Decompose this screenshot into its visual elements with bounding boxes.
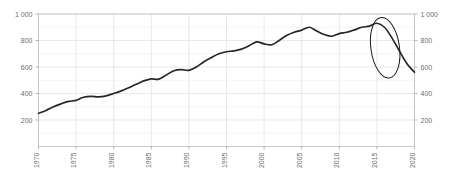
y-axis-tick-label-right: 600 <box>421 64 433 71</box>
x-tick-marks <box>39 147 415 150</box>
x-axis-tick-label: 2005 <box>296 152 303 168</box>
x-axis-tick-label: 1995 <box>221 152 228 168</box>
y-axis-tick-label: 600 <box>21 64 33 71</box>
y-tick-marks-right <box>415 14 418 120</box>
x-axis-tick-label: 2020 <box>409 152 416 168</box>
y-axis-labels-right: 2004006008001 000 <box>421 11 439 124</box>
y-axis-tick-label-right: 200 <box>421 117 433 124</box>
y-axis-tick-label: 200 <box>21 117 33 124</box>
x-axis-tick-label: 2000 <box>258 152 265 168</box>
line-chart: 2004006008001 000 2004006008001 000 1970… <box>0 0 453 191</box>
x-axis-tick-label: 2015 <box>371 152 378 168</box>
y-axis-tick-label: 1 000 <box>15 11 33 18</box>
y-axis-tick-label-right: 1 000 <box>421 11 439 18</box>
y-axis-tick-label: 400 <box>21 90 33 97</box>
y-tick-marks-left <box>36 14 39 120</box>
x-axis-tick-label: 2010 <box>333 152 340 168</box>
y-axis-tick-label-right: 800 <box>421 37 433 44</box>
x-axis-tick-label: 1985 <box>145 152 152 168</box>
y-axis-labels-left: 2004006008001 000 <box>15 11 33 124</box>
x-axis-labels: 1970197519801985199019952000200520102015… <box>33 152 416 168</box>
x-axis-tick-label: 1970 <box>33 152 40 168</box>
x-axis-tick-label: 1975 <box>70 152 77 168</box>
chart-canvas: 2004006008001 000 2004006008001 000 1970… <box>0 0 453 191</box>
x-axis-tick-label: 1980 <box>108 152 115 168</box>
y-axis-tick-label: 800 <box>21 37 33 44</box>
x-axis-tick-label: 1990 <box>183 152 190 168</box>
y-axis-tick-label-right: 400 <box>421 90 433 97</box>
